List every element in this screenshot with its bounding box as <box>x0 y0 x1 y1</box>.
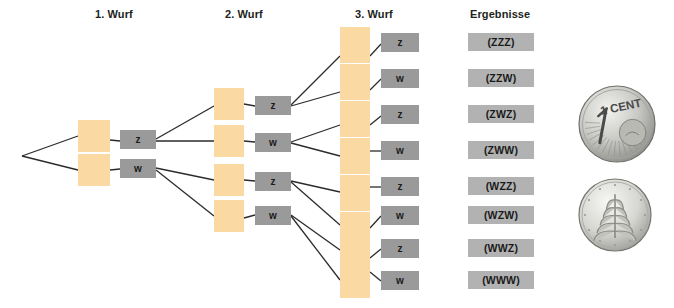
outcome-label-level2-2: w <box>255 133 291 152</box>
result-box-6: (WZW) <box>468 206 534 224</box>
outcome-label-level3-1: z <box>381 33 419 52</box>
tree-edge <box>156 170 214 216</box>
tree-edge <box>291 216 340 280</box>
branch-box-level2-4 <box>214 200 244 232</box>
result-box-2: (ZZW) <box>468 69 534 87</box>
tree-edge <box>156 106 214 139</box>
branch-box-level3-2 <box>340 64 370 100</box>
tree-edge <box>370 249 381 258</box>
outcome-label-level3-6: w <box>381 206 419 225</box>
column-header-3: 3. Wurf <box>355 8 393 20</box>
branch-box-level3-5 <box>340 175 370 211</box>
result-box-8: (WWW) <box>468 271 534 289</box>
tree-edge <box>370 79 381 90</box>
tree-edge <box>291 92 340 106</box>
result-box-7: (WWZ) <box>468 239 534 257</box>
tree-edge <box>22 136 78 156</box>
branch-box-level3-8 <box>340 262 370 298</box>
branch-box-level2-1 <box>214 88 244 120</box>
outcome-label-level1-1: z <box>120 130 156 149</box>
branch-box-level3-4 <box>340 138 370 174</box>
tree-edge <box>156 168 214 180</box>
result-box-3: (ZWZ) <box>468 105 534 123</box>
outcome-label-level3-3: z <box>381 105 419 124</box>
branch-box-level2-3 <box>214 164 244 196</box>
tree-edge <box>291 56 340 105</box>
tree-edge <box>291 182 340 225</box>
tree-edge <box>244 215 255 218</box>
tree-edge <box>244 180 255 181</box>
euro-1-cent-oak-leaf-side <box>578 178 652 252</box>
euro-1-cent-value-side: 1 CENT <box>578 85 656 163</box>
branch-box-level2-2 <box>214 125 244 157</box>
column-header-1: 1. Wurf <box>95 8 133 20</box>
branch-box-level3-3 <box>340 101 370 137</box>
outcome-label-level3-8: w <box>381 271 419 290</box>
tree-edge <box>291 181 340 192</box>
outcome-label-level3-5: z <box>381 177 419 196</box>
column-header-4: Ergebnisse <box>470 8 530 20</box>
outcome-label-level1-2: w <box>120 159 156 178</box>
tree-edge <box>22 156 78 170</box>
tree-edge <box>291 143 340 156</box>
tree-diagram-canvas: 1. Wurf2. Wurf3. WurfErgebnisse zwzwzwzw… <box>0 0 674 308</box>
outcome-label-level3-4: w <box>381 141 419 160</box>
outcome-label-level3-7: z <box>381 239 419 258</box>
tree-edge <box>244 104 255 106</box>
tree-edge <box>110 140 120 141</box>
outcome-label-level2-1: z <box>255 96 291 115</box>
tree-edge <box>110 169 120 170</box>
tree-edge <box>370 44 381 56</box>
column-header-2: 2. Wurf <box>225 8 263 20</box>
branch-box-level1-1 <box>78 120 110 152</box>
branch-box-level3-1 <box>340 27 370 63</box>
outcome-label-level2-3: z <box>255 172 291 191</box>
tree-edge <box>370 272 381 281</box>
result-box-4: (ZWW) <box>468 141 534 159</box>
result-box-5: (WZZ) <box>468 177 534 195</box>
branch-box-level1-2 <box>78 154 110 186</box>
tree-edge <box>291 215 340 250</box>
outcome-label-level2-4: w <box>255 206 291 225</box>
tree-edge <box>370 116 381 125</box>
result-box-1: (ZZZ) <box>468 33 534 51</box>
tree-edge <box>291 125 340 142</box>
tree-edge <box>370 216 381 228</box>
tree-edge <box>244 141 255 142</box>
outcome-label-level3-2: w <box>381 69 419 88</box>
